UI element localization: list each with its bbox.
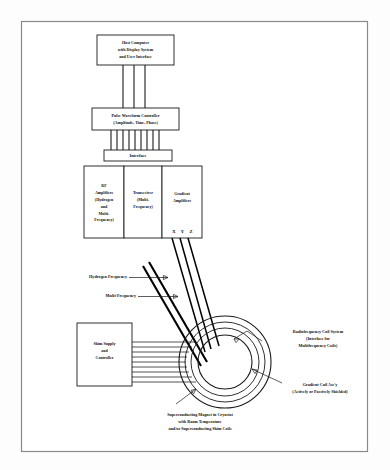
host-computer-block: Host Computer with Display System and Us… (97, 35, 174, 65)
rf-amp-line-2: Amplifiers (95, 190, 114, 195)
mri-system-block-diagram: Host Computer with Display System and Us… (0, 0, 390, 470)
rf-amp-line-1: RF (101, 183, 107, 188)
rf-coil-system-line-3: Multifrequency Coils) (299, 343, 339, 348)
rf-amp-line-4: and (101, 204, 108, 209)
shim-line-2: and (101, 348, 108, 353)
rf-coil-system-line-2: (Interface for (306, 336, 330, 341)
magnet-caption-line-2: with Room Temperature (178, 419, 222, 424)
gradient-coil-line-1: Gradient Coil Ass'y (303, 382, 339, 387)
interface-label: Interface (129, 153, 146, 158)
gradient-amp-line-1: Gradient (174, 191, 190, 196)
rf-amp-line-5: Multi- (99, 211, 111, 216)
diagram-canvas: Host Computer with Display System and Us… (0, 0, 390, 470)
transceiver-line-3: Frequency) (133, 204, 153, 209)
pulse-controller-line-1: Pulse Waveform Controller (111, 113, 159, 118)
shim-supply-block: Shim Supply and Controller (77, 323, 132, 386)
shim-line-3: Controller (96, 355, 114, 360)
gradient-coil-line-2: (Actively or Passively Shielded) (292, 389, 348, 394)
hydrogen-frequency-label: Hydrogen Frequency (89, 274, 128, 279)
host-computer-line-3: and User Interface (119, 54, 152, 59)
host-computer-line-1: Host Computer (122, 40, 149, 45)
multifrequency-label: Multi-Frequency (106, 293, 137, 298)
gradient-amp-line-2: Amplifiers (173, 198, 192, 203)
magnet-caption-line-1: Superconducting Magnet in Cryostat (167, 412, 233, 417)
gradient-axes-label: X Y Z (172, 229, 195, 234)
rf-coil-system-line-1: Radiofrequency Coil System (293, 329, 344, 334)
interface-block: Interface (104, 150, 172, 161)
amplifier-row: RF Amplifiers (Hydrogen and Multi- Frequ… (84, 166, 202, 238)
pulse-waveform-controller-block: Pulse Waveform Controller (Amplitude, Ti… (92, 108, 179, 130)
shim-line-1: Shim Supply (94, 341, 116, 346)
transceiver-line-1: Transceiver (133, 190, 153, 195)
rf-amp-line-3: (Hydrogen (95, 197, 114, 202)
host-computer-line-2: with Display System (118, 47, 154, 52)
magnet-caption-line-3: and/or Superconducting Shim Coils (168, 426, 231, 431)
pulse-controller-line-2: (Amplitude, Time, Phase) (113, 120, 158, 125)
rf-amp-line-6: Frequency) (94, 217, 114, 222)
transceiver-line-2: (Multi- (137, 197, 150, 202)
